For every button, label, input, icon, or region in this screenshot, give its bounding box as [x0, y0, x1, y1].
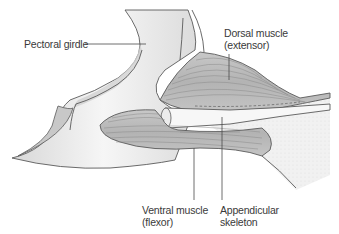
fin-anatomy-diagram: Pectoral girdle Dorsal muscle (extensor)… [0, 0, 339, 234]
label-pectoral-girdle: Pectoral girdle [24, 38, 88, 50]
label-appendicular-line1: Appendicular [220, 204, 279, 216]
label-dorsal-muscle-line1: Dorsal muscle [224, 27, 288, 39]
label-appendicular-line2: skeleton [220, 216, 279, 228]
label-pectoral-girdle-text: Pectoral girdle [24, 38, 88, 50]
label-ventral-muscle: Ventral muscle (flexor) [142, 204, 208, 228]
label-dorsal-muscle-line2: (extensor) [224, 39, 288, 51]
dorsal-muscle [160, 52, 330, 112]
label-dorsal-muscle: Dorsal muscle (extensor) [224, 27, 288, 51]
label-ventral-muscle-line1: Ventral muscle [142, 204, 208, 216]
anatomy-illustration [0, 0, 339, 234]
label-ventral-muscle-line2: (flexor) [142, 216, 208, 228]
label-appendicular-skeleton: Appendicular skeleton [220, 204, 279, 228]
